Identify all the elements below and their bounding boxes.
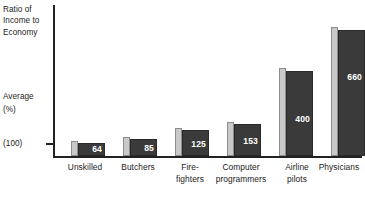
plot-area: 64 85 125 153 bbox=[53, 5, 362, 156]
bar-value-firefighters: 125 bbox=[191, 139, 206, 149]
x-axis-label-unskilled-line-1: Unskilled bbox=[54, 162, 116, 174]
bar-side-face-firefighters bbox=[175, 128, 182, 156]
bar-value-butchers: 85 bbox=[144, 143, 154, 153]
x-axis-label-butchers: Butchers bbox=[108, 162, 168, 174]
bar-computer-programmers: 153 bbox=[227, 122, 261, 156]
x-axis-label-unskilled: Unskilled bbox=[54, 162, 116, 174]
bar-front-face-physicians bbox=[338, 30, 365, 156]
bar-physicians: 660 bbox=[331, 27, 365, 156]
bar-side-face-airline-pilots bbox=[279, 68, 286, 156]
x-axis-line bbox=[53, 156, 362, 158]
y-axis-label-baseline-100: (100) bbox=[3, 138, 22, 149]
bar-group-firefighters: 125 bbox=[175, 128, 209, 156]
x-axis-label-computer-programmers: Computer programmers bbox=[206, 162, 276, 185]
x-axis-label-physicians-line-1: Physicians bbox=[314, 162, 364, 174]
bar-airline-pilots: 400 bbox=[279, 68, 313, 156]
bar-group-airline-pilots: 400 bbox=[279, 68, 313, 156]
bar-side-face-computer-programmers bbox=[227, 122, 234, 156]
x-axis-label-butchers-line-1: Butchers bbox=[108, 162, 168, 174]
bar-side-face-butchers bbox=[123, 137, 130, 156]
bar-group-unskilled: 64 bbox=[71, 141, 105, 156]
y-axis-title-line-2: Income to bbox=[3, 15, 51, 26]
bar-group-butchers: 85 bbox=[123, 137, 157, 156]
bar-value-airline-pilots: 400 bbox=[295, 114, 310, 124]
bar-firefighters: 125 bbox=[175, 128, 209, 156]
x-axis-label-computer-programmers-line-2: programmers bbox=[206, 174, 276, 186]
x-axis-label-physicians: Physicians bbox=[314, 162, 364, 174]
x-axis-label-airline-pilots-line-2: pilots bbox=[272, 174, 322, 186]
bar-group-physicians: 660 bbox=[331, 27, 365, 156]
bar-group-computer-programmers: 153 bbox=[227, 122, 261, 156]
bar-side-face-physicians bbox=[331, 27, 338, 156]
y-axis-label-percent: (%) bbox=[3, 104, 16, 115]
y-axis-title-line-3: Economy bbox=[3, 27, 51, 38]
bar-value-computer-programmers: 153 bbox=[243, 136, 258, 146]
bar-value-physicians: 660 bbox=[347, 72, 362, 82]
x-axis-label-computer-programmers-line-1: Computer bbox=[206, 162, 276, 174]
y-axis-title-line-1: Ratio of bbox=[3, 4, 51, 15]
y-axis-label-average: Average bbox=[3, 91, 34, 102]
y-axis-title: Ratio of Income to Economy bbox=[3, 4, 51, 38]
bar-chart: Ratio of Income to Economy Average (%) (… bbox=[0, 0, 365, 197]
bar-butchers: 85 bbox=[123, 137, 157, 156]
bar-value-unskilled: 64 bbox=[92, 144, 102, 154]
bar-unskilled: 64 bbox=[71, 141, 105, 156]
bar-side-face-unskilled bbox=[71, 141, 78, 156]
